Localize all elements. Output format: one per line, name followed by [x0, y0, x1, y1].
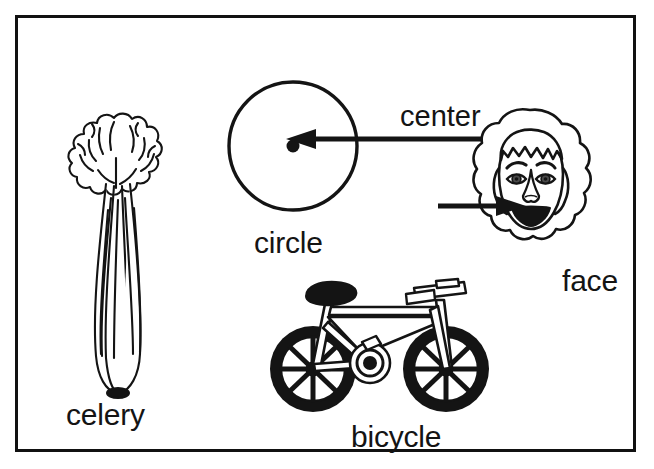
celery-icon: [56, 110, 186, 400]
celery-label: celery: [66, 400, 145, 430]
bicycle-label: bicycle: [351, 422, 441, 452]
worksheet-page: celery circle center: [0, 0, 654, 469]
bicycle-handlebars: [406, 279, 466, 304]
worksheet-border: celery circle center: [15, 15, 636, 452]
face-icon: [466, 106, 596, 266]
bicycle-seat: [306, 282, 356, 305]
face-label: face: [562, 266, 618, 296]
bicycle-icon: [258, 276, 498, 416]
circle-label: circle: [254, 228, 323, 258]
face-arrow-icon: [438, 193, 526, 219]
